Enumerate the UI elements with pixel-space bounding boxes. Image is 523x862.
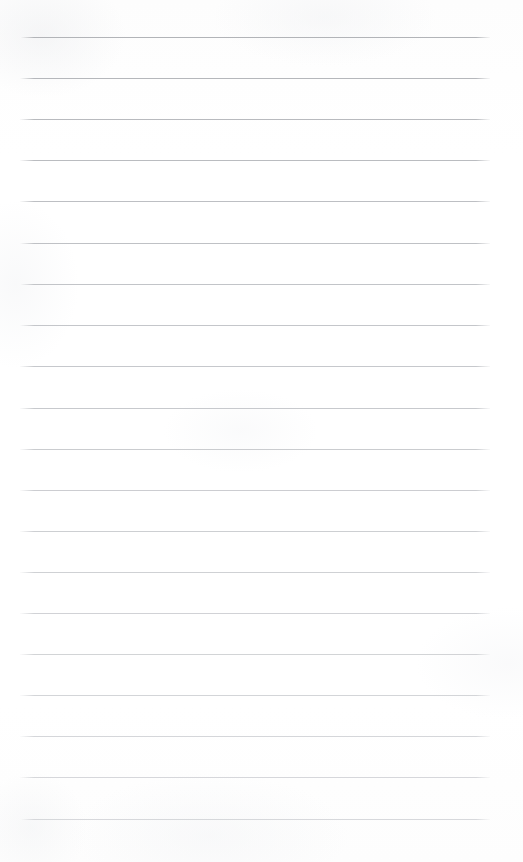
ruled-line	[20, 284, 490, 285]
ruled-line	[20, 819, 490, 820]
ruled-line	[20, 408, 490, 409]
lined-paper-page	[0, 0, 523, 862]
ruled-line	[20, 449, 490, 450]
ruled-line	[20, 531, 490, 532]
ruled-line	[20, 243, 490, 244]
ruled-line	[20, 654, 490, 655]
ruled-line	[20, 695, 490, 696]
ruled-line	[20, 572, 490, 573]
ruled-line	[20, 37, 490, 38]
ruled-line	[20, 613, 490, 614]
ruled-line	[20, 119, 490, 120]
ruled-line	[20, 490, 490, 491]
ruled-line	[20, 160, 490, 161]
ruled-line	[20, 736, 490, 737]
ruled-line	[20, 366, 490, 367]
ruled-line	[20, 325, 490, 326]
ruled-line	[20, 78, 490, 79]
ruled-line	[20, 201, 490, 202]
ruled-line	[20, 777, 490, 778]
ruled-lines-group	[0, 0, 523, 862]
